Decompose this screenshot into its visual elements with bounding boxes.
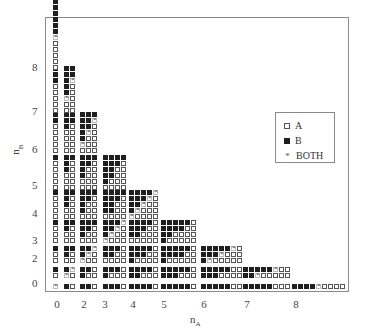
cell-a (53, 179, 58, 184)
cell-a (86, 208, 91, 213)
cell-b (80, 246, 85, 251)
cell-a (153, 246, 158, 251)
cell-a (179, 258, 184, 263)
y-tick-7: 7 (32, 105, 38, 117)
cell-a (70, 226, 75, 231)
cell-a (86, 232, 91, 237)
cell-a (231, 258, 236, 263)
cell-both (64, 96, 69, 101)
cell-a (64, 258, 69, 263)
cell-a (53, 84, 58, 89)
cell-a (237, 267, 242, 272)
cell-b (147, 246, 152, 251)
cell-a (92, 130, 97, 135)
cell-b (161, 238, 166, 243)
cell-both (92, 246, 97, 251)
cell-b (86, 118, 91, 123)
cell-a (167, 238, 172, 243)
cell-a (115, 258, 120, 263)
cell-b (80, 267, 85, 272)
cell-b (109, 252, 114, 257)
cell-a (340, 284, 345, 289)
cell-b (92, 155, 97, 160)
cell-both (109, 232, 114, 237)
cell-b (167, 252, 172, 257)
cell-b (80, 173, 85, 178)
cell-a (70, 252, 75, 257)
cell-a (70, 90, 75, 95)
cell-b (109, 155, 114, 160)
cell-a (179, 238, 184, 243)
cell-a (53, 202, 58, 207)
cell-b (167, 284, 172, 289)
cell-a (115, 202, 120, 207)
cell-both (70, 78, 75, 83)
cell-b (64, 84, 69, 89)
cell-a (92, 196, 97, 201)
cell-b (80, 124, 85, 129)
cell-a (173, 238, 178, 243)
cell-b (129, 232, 134, 237)
block-nA0-nB4 (53, 190, 58, 219)
cell-b (64, 161, 69, 166)
cell-b (173, 226, 178, 231)
cell-a (80, 179, 85, 184)
cell-a (103, 258, 108, 263)
cell-b (135, 246, 140, 251)
cell-a (92, 238, 97, 243)
cell-b (103, 179, 108, 184)
block-nA0-nB6 (53, 112, 58, 153)
legend-item-a: A (284, 120, 302, 131)
cell-b (53, 155, 58, 160)
cell-a (237, 252, 242, 257)
cell-a (70, 136, 75, 141)
cell-b (115, 246, 120, 251)
cell-b (141, 267, 146, 272)
cell-b (225, 284, 230, 289)
cell-b (103, 267, 108, 272)
cell-a (231, 284, 236, 289)
cell-a (191, 226, 196, 231)
cell-b (249, 267, 254, 272)
cell-a (173, 232, 178, 237)
cell-a (191, 258, 196, 263)
cell-both (92, 118, 97, 123)
cell-a (121, 273, 126, 278)
cell-b (115, 267, 120, 272)
cell-b (179, 284, 184, 289)
cell-a (70, 96, 75, 101)
cell-b (53, 118, 58, 123)
y-tick-5: 5 (32, 179, 38, 191)
cell-a (191, 220, 196, 225)
cell-b (161, 232, 166, 237)
cell-b (115, 284, 120, 289)
cell-b (173, 220, 178, 225)
cell-b (70, 190, 75, 195)
cell-b (161, 258, 166, 263)
cell-b (167, 226, 172, 231)
cell-a (185, 238, 190, 243)
cell-b (173, 273, 178, 278)
cell-b (201, 252, 206, 257)
y-tick-3: 3 (32, 234, 38, 246)
cell-a (279, 267, 284, 272)
cell-a (86, 214, 91, 219)
x-tick-6: 6 (201, 298, 207, 310)
cell-a (141, 232, 146, 237)
cell-a (129, 238, 134, 243)
cell-a (225, 258, 230, 263)
cell-b (173, 267, 178, 272)
cell-a (92, 161, 97, 166)
block-nA2-nB6 (80, 112, 97, 153)
cell-b (103, 226, 108, 231)
x-tick-4: 4 (130, 298, 136, 310)
cell-b (103, 220, 108, 225)
cell-a (64, 173, 69, 178)
cell-a (53, 238, 58, 243)
cell-a (279, 273, 284, 278)
cell-both (80, 142, 85, 147)
cell-a (121, 161, 126, 166)
block-nA2-nB5 (80, 155, 97, 190)
cell-b (161, 226, 166, 231)
block-nA4-nB3 (129, 220, 158, 243)
